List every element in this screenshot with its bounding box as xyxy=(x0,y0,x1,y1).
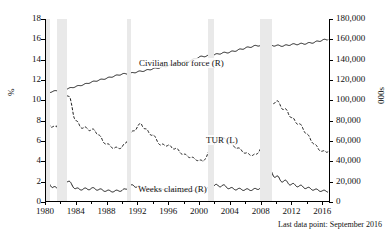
series-label-weeks-claimed: Weeks claimed (R) xyxy=(137,184,208,194)
y-axis-right-tick-label: 140,000 xyxy=(336,54,388,64)
x-axis-tick-label: 2016 xyxy=(302,206,342,216)
y-axis-right-tick-label: 80,000 xyxy=(336,115,388,125)
footnote-last-data-point: Last data point: September 2016 xyxy=(0,220,382,229)
y-axis-left-tick-label: 18 xyxy=(3,13,41,23)
y-axis-left-tick xyxy=(41,100,45,101)
x-axis-tick xyxy=(107,201,108,205)
plot-area: 024681012141618 020,00040,00060,00080,00… xyxy=(45,19,330,202)
x-axis-tick xyxy=(168,201,169,205)
y-axis-left-tick-label: 14 xyxy=(3,54,41,64)
x-axis-minor-tick xyxy=(214,201,215,204)
y-axis-right-tick xyxy=(329,161,333,162)
y-axis-left-tick xyxy=(41,60,45,61)
y-axis-right-tick xyxy=(329,100,333,101)
y-axis-left-tick-label: 12 xyxy=(3,74,41,84)
series-label-civilian-labor-force: Civilian labor force (R) xyxy=(138,58,225,68)
y-axis-left-tick xyxy=(41,39,45,40)
series-label-tur: TUR (L) xyxy=(205,135,239,145)
series-lines xyxy=(45,19,330,202)
y-axis-left-tick-label: 2 xyxy=(3,176,41,186)
chart-root: 024681012141618 020,00040,00060,00080,00… xyxy=(0,0,388,235)
x-axis-line xyxy=(45,201,330,202)
x-axis-tick xyxy=(322,201,323,205)
x-axis-tick xyxy=(76,201,77,205)
recession-band xyxy=(57,19,68,202)
x-axis-tick xyxy=(137,201,138,205)
x-axis-minor-tick xyxy=(276,201,277,204)
y-axis-left-title: % xyxy=(6,89,16,97)
x-axis-minor-tick xyxy=(184,201,185,204)
x-axis-minor-tick xyxy=(122,201,123,204)
x-axis-tick xyxy=(199,201,200,205)
y-axis-left-line xyxy=(45,19,46,202)
y-axis-right-tick-label: 20,000 xyxy=(336,176,388,186)
recession-band xyxy=(208,19,213,202)
y-axis-right-tick-label: 60,000 xyxy=(336,135,388,145)
y-axis-right-tick xyxy=(329,19,333,20)
y-axis-left-tick-label: 16 xyxy=(3,33,41,43)
recession-band xyxy=(127,19,132,202)
y-axis-right-tick xyxy=(329,80,333,81)
y-axis-left-tick-label: 8 xyxy=(3,115,41,125)
y-axis-right-tick-label: 180,000 xyxy=(336,13,388,23)
y-axis-right-title: 000s xyxy=(376,87,386,104)
y-axis-left-tick-label: 0 xyxy=(3,196,41,206)
x-axis-minor-tick xyxy=(60,201,61,204)
y-axis-right-tick xyxy=(329,202,333,203)
x-axis-tick xyxy=(261,201,262,205)
x-axis-minor-tick xyxy=(245,201,246,204)
y-axis-left-tick xyxy=(41,161,45,162)
recession-band xyxy=(260,19,272,202)
x-axis-minor-tick xyxy=(153,201,154,204)
y-axis-right-tick-label: 160,000 xyxy=(336,33,388,43)
y-axis-right-tick-label: 0 xyxy=(336,196,388,206)
y-axis-left-tick xyxy=(41,121,45,122)
y-axis-left-tick-label: 6 xyxy=(3,135,41,145)
x-axis-tick xyxy=(291,201,292,205)
y-axis-right-tick xyxy=(329,121,333,122)
y-axis-left-tick-label: 4 xyxy=(3,155,41,165)
y-axis-left-tick xyxy=(41,80,45,81)
y-axis-right-line xyxy=(329,19,330,202)
y-axis-right-tick xyxy=(329,39,333,40)
clipped-chart-title xyxy=(0,0,388,2)
y-axis-right-tick-label: 40,000 xyxy=(336,155,388,165)
y-axis-right-tick xyxy=(329,60,333,61)
x-axis-tick xyxy=(45,201,46,205)
series-line xyxy=(45,94,328,161)
x-axis-tick xyxy=(230,201,231,205)
x-axis-minor-tick xyxy=(91,201,92,204)
y-axis-left-tick xyxy=(41,182,45,183)
y-axis-right-tick-label: 120,000 xyxy=(336,74,388,84)
y-axis-left-tick xyxy=(41,19,45,20)
y-axis-left-tick xyxy=(41,141,45,142)
x-axis-minor-tick xyxy=(307,201,308,204)
y-axis-right-tick xyxy=(329,182,333,183)
y-axis-right-tick xyxy=(329,141,333,142)
